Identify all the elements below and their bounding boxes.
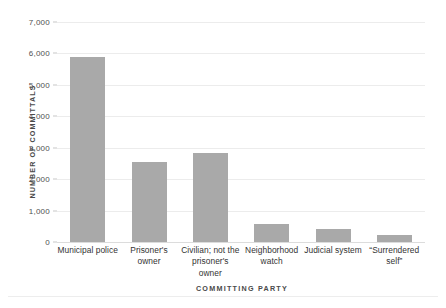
y-axis-tick-label: 7,000 [4,18,50,27]
x-axis-category-label: Civilian; not the prisoner's owner [180,245,241,279]
y-axis-tick-label: 4,000 [4,112,50,121]
y-axis-tick-mark [53,242,57,243]
bar [316,229,351,242]
gridline [57,242,425,243]
y-axis-tick-label: 5,000 [4,80,50,89]
bar [132,162,167,242]
x-axis-category-label: Prisoner's owner [118,245,179,268]
bottom-divider [8,296,438,297]
x-axis-category-labels: Municipal policePrisoner's ownerCivilian… [57,245,425,279]
plot-area [57,22,425,242]
y-axis-tick-mark [53,210,57,211]
y-axis-tick-mark [53,84,57,85]
x-axis-category-label: Neighborhood watch [241,245,302,268]
y-axis-tick-mark [53,22,57,23]
bar [254,224,289,242]
y-axis-tick-mark [53,147,57,148]
y-axis-tick-mark [53,53,57,54]
bar [193,153,228,242]
y-axis-tick-label: 2,000 [4,175,50,184]
y-axis-tick-mark [53,116,57,117]
bar-chart: NUMBER OF COMMITTALS 01,0002,0003,0004,0… [0,0,446,308]
bars-group [57,22,425,242]
y-axis-tick-label: 3,000 [4,143,50,152]
x-axis-category-label: Municipal police [57,245,118,256]
y-axis-tick-mark [53,179,57,180]
x-axis-category-label: “Surrendered self” [364,245,425,268]
x-axis-category-label: Judicial system [302,245,363,256]
y-axis-tick-label: 6,000 [4,49,50,58]
x-axis-title: COMMITTING PARTY [57,284,427,293]
bar [70,57,105,242]
bar [377,235,412,242]
y-axis-tick-label: 1,000 [4,206,50,215]
y-axis-tick-label: 0 [4,238,50,247]
